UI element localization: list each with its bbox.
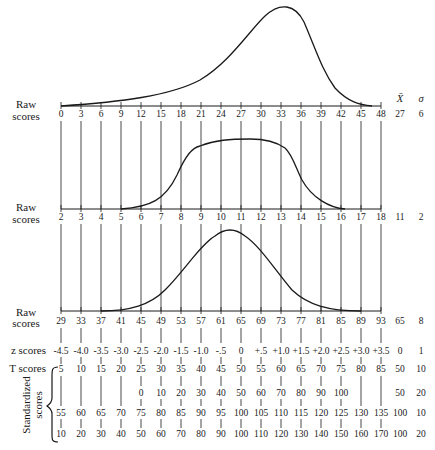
raw-tick-label: 77 [296, 316, 306, 326]
raw-tick-label: 73 [276, 316, 286, 326]
standardized-tick-label: 120 [274, 429, 289, 439]
raw-tick-label: 57 [196, 316, 206, 326]
t-tick-label: 45 [216, 364, 226, 374]
standardized-tick-label: 50 [236, 388, 246, 398]
standardized-tick-label: 110 [274, 408, 288, 418]
raw-tick-label: 9 [119, 109, 124, 119]
t-tick-label: 40 [196, 364, 206, 374]
raw-tick-label: 27 [236, 109, 246, 119]
standardized-tick-label: 170 [374, 429, 389, 439]
standardized-tick-label: 60 [76, 408, 86, 418]
mean-value: 0 [398, 346, 403, 356]
raw-tick-label: 11 [236, 212, 245, 222]
raw-tick-label: 69 [256, 316, 266, 326]
standardized-tick-label: 65 [96, 408, 106, 418]
standardized-tick-label: 40 [116, 429, 126, 439]
sd-value: 6 [419, 109, 424, 119]
standardized-tick-label: 10 [56, 429, 66, 439]
standardized-tick-label: 100 [234, 408, 249, 418]
standardized-tick-label: 75 [136, 408, 146, 418]
raw-scores-label-2b: scores [12, 213, 40, 225]
t-tick-label: 50 [236, 364, 246, 374]
standardized-tick-label: 130 [294, 429, 309, 439]
raw-tick-label: 5 [119, 212, 124, 222]
standardized-tick-label: 105 [254, 408, 269, 418]
mean-value: 50 [395, 364, 405, 374]
standardized-tick-label: 135 [374, 408, 389, 418]
raw-tick-label: 13 [276, 212, 286, 222]
connector-lines [61, 102, 381, 428]
standardized-tick-label: 40 [216, 388, 226, 398]
standardized-tick-label: 80 [196, 429, 206, 439]
standardized-tick-label: 20 [176, 388, 186, 398]
mean-value: 100 [393, 429, 408, 439]
raw-tick-label: 65 [236, 316, 246, 326]
z-tick-label: -2.5 [133, 346, 148, 356]
standardized-tick-label: 0 [139, 388, 144, 398]
standardized-tick-label: 80 [296, 388, 306, 398]
standardized-tick-label: 125 [334, 408, 349, 418]
t-tick-label: 5 [59, 364, 64, 374]
raw-scores-label-1a: Raw [16, 98, 36, 110]
standardized-tick-label: 130 [354, 408, 369, 418]
standardized-tick-label: 100 [334, 388, 349, 398]
score-comparison-diagram: X̄ σ Raw scores Raw scores Raw scores z … [0, 0, 435, 450]
standardized-scores-label-a: Standardized [20, 376, 32, 434]
standardized-scores-label-b: scores [32, 391, 44, 419]
raw-tick-label: 49 [156, 316, 166, 326]
standardized-tick-label: 85 [176, 408, 186, 418]
raw-tick-label: 6 [139, 212, 144, 222]
t-tick-label: 60 [276, 364, 286, 374]
mean-header: X̄ [396, 93, 404, 104]
z-tick-label: -1.0 [193, 346, 208, 356]
raw-tick-label: 48 [376, 109, 386, 119]
sd-value: 10 [416, 408, 426, 418]
raw-tick-label: 6 [99, 109, 104, 119]
raw-tick-label: 37 [96, 316, 106, 326]
raw-scores-label-1b: scores [12, 110, 40, 122]
standardized-tick-label: 120 [314, 408, 329, 418]
z-tick-label: +3.5 [372, 346, 389, 356]
raw-tick-label: 29 [56, 316, 66, 326]
standardized-tick-label: 30 [196, 388, 206, 398]
standardized-tick-label: 150 [334, 429, 349, 439]
platykurtic-curve [121, 139, 345, 209]
t-tick-label: 85 [376, 364, 386, 374]
standardized-tick-label: 95 [216, 408, 226, 418]
t-tick-label: 20 [116, 364, 126, 374]
raw-tick-label: 24 [216, 109, 226, 119]
raw-tick-label: 16 [336, 212, 346, 222]
raw-tick-label: 30 [256, 109, 266, 119]
t-tick-label: 65 [296, 364, 306, 374]
sd-value: 10 [416, 364, 426, 374]
standardized-tick-label: 50 [136, 429, 146, 439]
mean-value: 50 [395, 388, 405, 398]
raw-scores-label-3b: scores [12, 317, 40, 329]
raw-tick-label: 45 [356, 109, 366, 119]
standardized-tick-label: 90 [216, 429, 226, 439]
standardized-tick-label: 90 [316, 388, 326, 398]
raw-tick-label: 41 [116, 316, 126, 326]
raw-tick-label: 93 [376, 316, 386, 326]
sd-value: 2 [419, 212, 424, 222]
mean-value: 65 [395, 316, 405, 326]
z-tick-label: -3.0 [113, 346, 128, 356]
raw-tick-label: 85 [336, 316, 346, 326]
raw-tick-label: 0 [59, 109, 64, 119]
t-scores-label: T scores [9, 362, 46, 374]
mean-value: 27 [395, 109, 405, 119]
sd-value: 20 [416, 388, 426, 398]
standardized-tick-label: 140 [314, 429, 329, 439]
z-tick-label: -3.5 [93, 346, 108, 356]
raw-tick-label: 4 [99, 212, 104, 222]
t-tick-label: 30 [156, 364, 166, 374]
t-tick-label: 10 [76, 364, 86, 374]
z-tick-label: -.5 [216, 346, 227, 356]
z-scores-label: z scores [11, 344, 46, 356]
z-tick-label: +1.0 [272, 346, 289, 356]
raw-tick-label: 33 [276, 109, 286, 119]
raw-tick-label: 21 [196, 109, 206, 119]
raw-tick-label: 17 [356, 212, 366, 222]
sd-value: 20 [416, 429, 426, 439]
t-tick-label: 70 [316, 364, 326, 374]
